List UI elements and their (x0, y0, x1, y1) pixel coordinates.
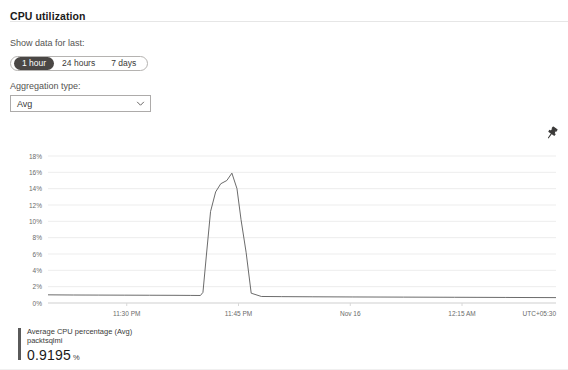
time-range-option-24-hours[interactable]: 24 hours (54, 57, 103, 70)
y-axis-tick-label: 8% (33, 234, 43, 241)
timezone-label: UTC+05:30 (523, 310, 557, 317)
legend-resource-name: packtsqlmi (27, 337, 132, 346)
chart-timezone-label: UTC+05:30 (523, 310, 557, 317)
x-axis-tick-label: Nov 16 (340, 310, 361, 317)
time-range-label: Show data for last: (10, 38, 151, 49)
y-axis-tick-label: 12% (29, 202, 42, 209)
y-axis-tick-label: 4% (33, 267, 43, 274)
chart-y-axis-labels: 18%16%14%12%10%8%6%4%2%0% (29, 153, 42, 307)
pin-to-dashboard-button[interactable] (543, 125, 560, 142)
chevron-down-icon (136, 99, 145, 108)
pin-icon (543, 125, 560, 142)
chart-legend[interactable]: Average CPU percentage (Avg) packtsqlmi … (18, 328, 132, 365)
header-divider (10, 21, 568, 22)
time-range-option-7-days[interactable]: 7 days (103, 57, 144, 70)
legend-text-block: Average CPU percentage (Avg) packtsqlmi … (27, 328, 132, 365)
series-line (48, 173, 556, 297)
x-axis-tick-label: 12:15 AM (448, 310, 475, 317)
legend-color-swatch (18, 328, 21, 360)
aggregation-type-label: Aggregation type: (10, 81, 151, 92)
aggregation-type-value: Avg (17, 99, 32, 109)
y-axis-tick-label: 14% (29, 185, 42, 192)
legend-unit: % (73, 353, 80, 362)
time-range-option-1-hour[interactable]: 1 hour (14, 57, 54, 70)
x-axis-tick-label: 11:45 PM (225, 310, 252, 317)
chart-controls: Show data for last: 1 hour 24 hours 7 da… (10, 38, 151, 112)
chart-gridlines (48, 156, 556, 303)
legend-current-value: 0.9195 (27, 347, 71, 363)
y-axis-tick-label: 6% (33, 251, 43, 258)
y-axis-tick-label: 2% (33, 283, 43, 290)
time-range-pill-group[interactable]: 1 hour 24 hours 7 days (10, 56, 148, 71)
cpu-utilization-chart[interactable]: 18%16%14%12%10%8%6%4%2%0% 11:30 PM11:45 … (0, 148, 568, 320)
chart-series (48, 173, 556, 297)
aggregation-type-select[interactable]: Avg (10, 95, 151, 112)
y-axis-tick-label: 16% (29, 169, 42, 176)
chart-canvas: 18%16%14%12%10%8%6%4%2%0% 11:30 PM11:45 … (0, 148, 568, 320)
y-axis-tick-label: 0% (33, 300, 43, 307)
chart-x-axis-labels: 11:30 PM11:45 PMNov 1612:15 AM (113, 303, 476, 317)
y-axis-tick-label: 10% (29, 218, 42, 225)
y-axis-tick-label: 18% (29, 153, 42, 160)
panel-header: CPU utilization (0, 0, 568, 20)
x-axis-tick-label: 11:30 PM (113, 310, 140, 317)
